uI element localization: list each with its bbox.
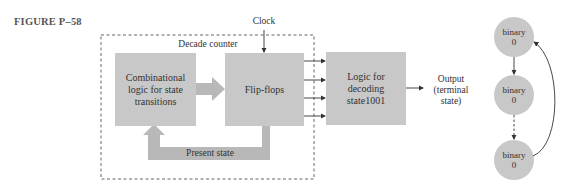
block-text-line: Combinational — [126, 72, 185, 84]
transition-arrow-3-1-return — [533, 42, 555, 156]
state-node-text: binary — [494, 150, 534, 160]
block-text-line: transitions — [126, 96, 185, 108]
block-text-line: logic for state — [126, 84, 185, 96]
state-node-3: binary 0 — [494, 150, 534, 170]
state-node-text: binary — [494, 85, 534, 95]
state-node-value: 0 — [494, 95, 534, 105]
state-node-value: 0 — [494, 160, 534, 170]
decoding-logic-block: Logic for decoding state1001 — [326, 52, 406, 125]
output-label: Output (terminal state) — [424, 74, 478, 107]
next-state-arrow — [196, 77, 225, 101]
block-text-line: Logic for — [347, 71, 385, 83]
block-text-line: state1001 — [347, 95, 385, 107]
block-text-line: decoding — [347, 83, 385, 95]
flip-flops-block: Flip-flops — [225, 53, 304, 126]
output-label-line: state) — [424, 96, 478, 107]
state-node-2: binary 0 — [494, 85, 534, 105]
output-label-line: (terminal — [424, 85, 478, 96]
decade-counter-label: Decade counter — [158, 39, 258, 50]
combinational-logic-block: Combinational logic for state transition… — [115, 53, 196, 126]
block-text-line: Flip-flops — [245, 84, 284, 96]
state-node-1: binary 0 — [494, 27, 534, 47]
state-node-value: 0 — [494, 37, 534, 47]
clock-label: Clock — [240, 16, 288, 27]
present-state-label: Present state — [170, 148, 250, 159]
output-label-line: Output — [424, 74, 478, 85]
state-node-text: binary — [494, 27, 534, 37]
